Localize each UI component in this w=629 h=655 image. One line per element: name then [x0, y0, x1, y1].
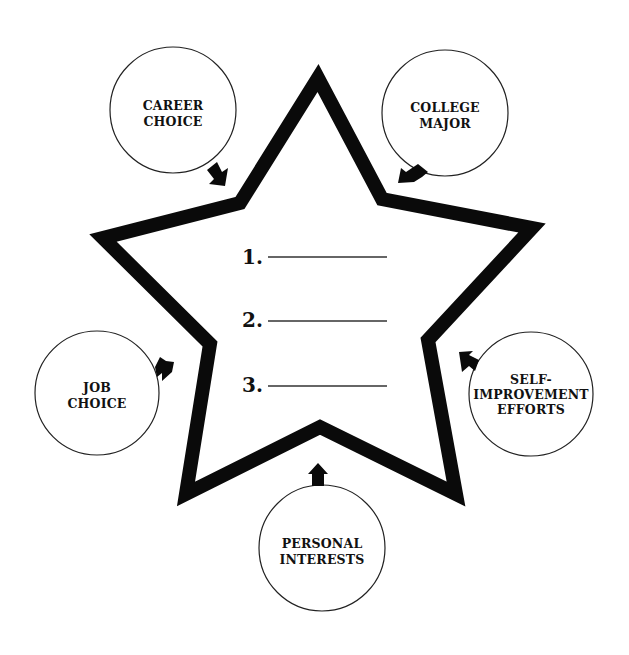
- influence-label-line: EFFORTS: [497, 402, 565, 417]
- list-number: 1.: [242, 245, 263, 269]
- influence-label-line: CAREER: [143, 98, 204, 113]
- influence-label-line: INTERESTS: [279, 552, 364, 567]
- star-diagram: 1. 2. 3. CAREER CHOICE COLLEGE MAJOR JOB…: [0, 0, 629, 655]
- influence-label-line: IMPROVEMENT: [473, 387, 589, 402]
- arrow-up-icon: [308, 463, 328, 486]
- influence-label-line: PERSONAL: [282, 536, 363, 551]
- influence-personal-interests: PERSONAL INTERESTS: [259, 463, 385, 611]
- influence-college-major: COLLEGE MAJOR: [382, 50, 508, 183]
- influence-label-line: CHOICE: [67, 396, 126, 411]
- influence-job-choice: JOB CHOICE: [35, 331, 174, 455]
- arrow-right-icon: [155, 357, 174, 381]
- influence-career-choice: CAREER CHOICE: [110, 47, 236, 186]
- arrow-down-right-icon: [207, 162, 228, 186]
- influence-label-line: MAJOR: [419, 116, 471, 131]
- influence-label-line: JOB: [82, 380, 111, 395]
- influence-label-line: CHOICE: [143, 114, 202, 129]
- influence-label-line: SELF-: [510, 372, 552, 387]
- list-number: 3.: [242, 373, 263, 397]
- influence-self-improvement-efforts: SELF- IMPROVEMENT EFFORTS: [459, 332, 593, 456]
- influence-label-line: COLLEGE: [410, 100, 480, 115]
- list-number: 2.: [242, 308, 263, 332]
